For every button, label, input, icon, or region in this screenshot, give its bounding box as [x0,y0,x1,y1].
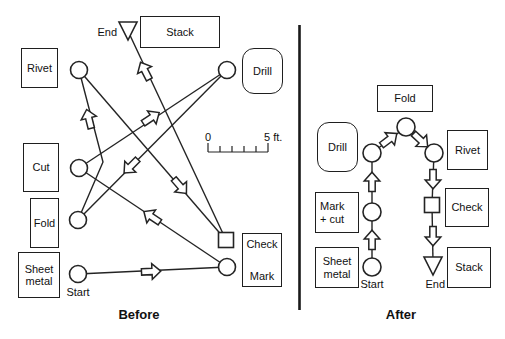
operation-circle-drill [219,62,236,79]
scale-zero-label: 0 [200,131,216,143]
before-box-check-mark: Check Mark [242,233,282,287]
after-caption: After [371,307,431,322]
before-box-mark-label: Mark [250,270,274,283]
after-box-stack: Stack [447,247,491,288]
storage-triangle-end [119,22,137,40]
process-flow-diagram: Rivet Stack Drill Cut Fold Sheet metal C… [0,0,505,339]
before-flow-lines [78,31,227,274]
operation-circle-rivet [71,62,88,79]
operation-circle-drill [363,144,381,162]
inspection-square-check [425,198,440,213]
before-end-label: End [90,26,117,38]
arrow-check-to-end [425,227,441,246]
after-sheet-line1: Sheet [323,255,352,268]
before-sheet-line1: Sheet [25,263,54,276]
after-box-check-label: Check [451,201,482,214]
before-box-rivet-label: Rivet [27,62,52,75]
after-end-label: End [417,278,445,290]
operation-circle-cut [71,160,88,177]
before-caption: Before [109,307,169,322]
after-box-stack-label: Stack [455,261,483,274]
arrow-mark-to-cut [140,205,165,229]
arrow-start-to-markcut [364,230,380,249]
before-box-cut: Cut [23,143,59,192]
after-flow-nodes [363,118,443,276]
before-box-stack: Stack [140,16,220,48]
before-box-cut-label: Cut [32,161,49,174]
after-mark-line1: Mark [320,200,344,213]
after-box-mark-cut: Mark + cut [315,192,359,233]
scale-five-ft-label: 5 ft. [264,131,282,143]
before-box-stack-label: Stack [166,26,194,39]
after-box-rivet-label: Rivet [455,144,480,157]
after-box-rivet: Rivet [447,130,488,170]
operation-circle-mark [219,259,236,276]
operation-circle-fold [397,118,415,136]
before-transport-arrows [79,59,192,280]
after-box-fold-label: Fold [394,92,415,105]
before-box-fold-label: Fold [34,217,55,230]
arrow-fold-to-rivet [79,108,99,131]
operation-circle-start [363,258,381,276]
inspection-square-check [219,233,234,248]
arrow-rivet-to-check [425,170,441,189]
after-start-label: Start [357,278,387,290]
before-box-drill-label: Drill [253,65,272,78]
arrow-check-to-end [134,59,157,83]
before-box-check-label: Check [246,238,277,251]
arrow-markcut-to-drill [364,172,380,191]
operation-circle-fold [70,212,87,229]
operation-circle-markcut [363,203,381,221]
before-box-fold: Fold [30,198,59,248]
operation-circle-start [70,266,87,283]
line-drill-to-fold [78,70,227,220]
before-box-sheet-metal: Sheet metal [18,252,60,298]
arrow-start-to-mark [141,263,161,279]
after-box-drill-label: Drill [328,141,347,154]
after-sheet-line2: metal [324,268,351,281]
before-box-rivet: Rivet [21,48,58,88]
before-sheet-line2: metal [26,275,53,288]
storage-triangle-end [424,257,442,275]
before-start-label: Start [63,286,93,298]
after-box-drill: Drill [317,122,358,172]
after-box-check: Check [445,188,489,227]
after-mark-line2: + cut [320,213,344,226]
scale-bar-ruler [208,143,268,152]
after-box-fold: Fold [377,85,433,112]
after-box-sheet-metal: Sheet metal [315,247,359,288]
before-box-drill: Drill [242,48,283,94]
